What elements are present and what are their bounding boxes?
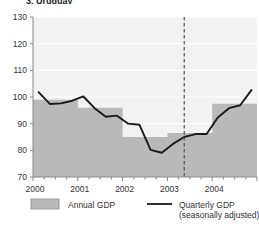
y-tick-label: 120 — [13, 39, 27, 49]
legend-sublabel-quarterly-gdp: (seasonally adjusted) — [179, 210, 259, 220]
y-axis-tick-labels: 708090100110120130 — [13, 12, 27, 182]
legend-label-quarterly-gdp: Quarterly GDP — [179, 200, 235, 210]
y-tick-label: 100 — [13, 92, 27, 102]
x-tick-label: 2000 — [26, 184, 45, 194]
x-tick-label: 2003 — [160, 184, 179, 194]
legend-label-annual-gdp: Annual GDP — [68, 200, 116, 210]
gdp-chart: 708090100110120130 20002001200220032004 … — [0, 0, 259, 226]
x-tick-label: 2001 — [70, 184, 89, 194]
chart-container: 3. Uruguay 708090100110120130 2000200120… — [0, 0, 259, 226]
legend-swatch-annual-gdp — [31, 199, 59, 209]
x-tick-label: 2002 — [115, 184, 134, 194]
x-tick-label: 2004 — [205, 184, 224, 194]
y-tick-label: 80 — [18, 145, 28, 155]
y-tick-label: 90 — [18, 119, 28, 129]
x-axis-tick-labels: 20002001200220032004 — [26, 184, 224, 194]
legend: Annual GDP Quarterly GDP (seasonally adj… — [31, 199, 259, 220]
y-tick-label: 130 — [13, 12, 27, 22]
y-tick-label: 110 — [13, 65, 27, 75]
y-tick-label: 70 — [18, 172, 28, 182]
